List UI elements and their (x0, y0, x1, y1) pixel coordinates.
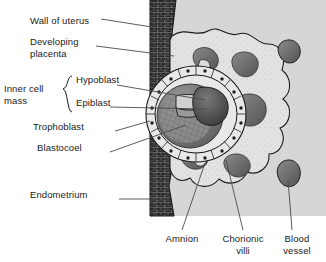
label-developing-placenta: Developing placenta (30, 36, 79, 59)
label-blood-vessel-line2: vessel (283, 245, 311, 256)
label-blood-vessel-line1: Blood (285, 233, 310, 244)
leader-wall-of-uterus (101, 19, 152, 27)
label-hypoblast: Hypoblast (76, 74, 119, 86)
inner-cell-mass-bracket (63, 76, 72, 112)
label-chorionic-villi-line1: Chorionic (222, 233, 263, 244)
figure-root: x, xx x xxx, xxx xxx xxxxxxxxx (0, 0, 326, 262)
label-inner-cell-mass-line2: mass (4, 95, 27, 106)
label-developing-placenta-line2: placenta (30, 48, 67, 59)
label-blastocoel: Blastocoel (37, 142, 82, 154)
label-blood-vessel: Blood vessel (272, 233, 322, 256)
label-inner-cell-mass-line1: Inner cell (4, 83, 44, 94)
label-chorionic-villi-line2: villi (236, 245, 250, 256)
leader-trophoblast (115, 121, 150, 131)
label-wall-of-uterus: Wall of uterus (30, 15, 89, 27)
label-endometrium: Endometrium (30, 189, 88, 201)
label-amnion-line1: Amnion (166, 233, 199, 244)
label-epiblast: Epiblast (76, 97, 111, 109)
leader-blood-vessel (288, 180, 292, 230)
label-trophoblast: Trophoblast (33, 121, 84, 133)
blastocyst (146, 66, 246, 162)
label-inner-cell-mass: Inner cell mass (4, 83, 44, 106)
label-chorionic-villi: Chorionic villi (212, 233, 274, 256)
label-amnion: Amnion (150, 233, 214, 245)
label-developing-placenta-line1: Developing (30, 36, 79, 47)
